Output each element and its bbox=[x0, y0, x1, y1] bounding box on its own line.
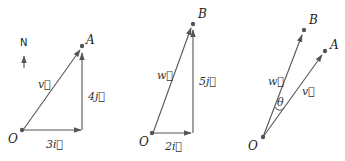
vector-diagram: N O A v⃗ 4j⃗ 3i⃗ O B w⃗ 5j⃗ 2i⃗ O B bbox=[0, 0, 345, 161]
point-b-label: B bbox=[197, 7, 207, 21]
point-b bbox=[302, 28, 306, 32]
point-a-label: A bbox=[329, 38, 339, 52]
origin-label: O bbox=[248, 139, 258, 153]
origin-label: O bbox=[8, 132, 18, 146]
point-a-label: A bbox=[85, 33, 95, 47]
compass: N bbox=[20, 37, 27, 68]
north-label: N bbox=[20, 37, 27, 48]
point-a bbox=[323, 49, 327, 53]
origin-point bbox=[261, 135, 265, 139]
point-b bbox=[191, 22, 195, 26]
vertical-component-label: 5j⃗ bbox=[199, 75, 216, 88]
angle-theta-label: θ bbox=[277, 96, 284, 109]
vector-v-label: v⃗ bbox=[38, 78, 51, 91]
origin-label: O bbox=[139, 135, 149, 149]
horizontal-component-label: 3i⃗ bbox=[46, 138, 63, 151]
panel-angle: O B A w⃗ v⃗ θ bbox=[248, 13, 339, 153]
vector-v-label: v⃗ bbox=[302, 85, 315, 98]
horizontal-component-label: 2i⃗ bbox=[164, 140, 182, 153]
vector-v-arrow bbox=[23, 50, 80, 130]
panel-vector-v: O A v⃗ 4j⃗ 3i⃗ bbox=[8, 33, 105, 151]
vector-w-label: w⃗ bbox=[268, 75, 284, 88]
point-b-label: B bbox=[308, 13, 318, 27]
panel-vector-w: O B w⃗ 5j⃗ 2i⃗ bbox=[139, 7, 216, 153]
origin-point bbox=[20, 128, 24, 132]
vertical-component-label: 4j⃗ bbox=[87, 90, 105, 103]
origin-point bbox=[150, 131, 154, 135]
vector-w-label: w⃗ bbox=[157, 69, 173, 82]
point-a bbox=[80, 44, 84, 48]
